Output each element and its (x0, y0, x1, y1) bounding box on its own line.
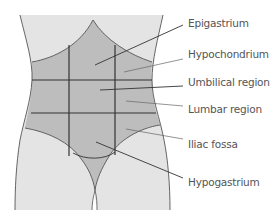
label-umbilical-region: Umbilical region (188, 76, 270, 88)
label-iliac-fossa: Iliac fossa (188, 138, 238, 150)
label-hypogastrium: Hypogastrium (188, 176, 260, 188)
label-hypochondrium: Hypochondrium (188, 48, 269, 60)
label-epigastrium: Epigastrium (188, 17, 249, 29)
label-lumbar-region: Lumbar region (188, 103, 262, 115)
